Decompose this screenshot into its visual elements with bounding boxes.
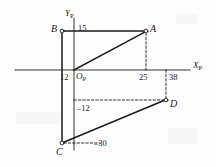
segment-OA — [74, 32, 145, 70]
point-marker-C — [60, 141, 64, 145]
tick-label-12: 12 — [60, 73, 69, 82]
tick-label-38: 38 — [169, 73, 178, 82]
point-label-A: A — [150, 24, 156, 34]
y-axis-label: YP — [65, 9, 74, 18]
point-label-C: C — [56, 147, 63, 157]
origin-label: OP — [76, 72, 86, 81]
tick-label-25: 25 — [139, 73, 148, 82]
coordinate-diagram: YP XP OP A B C D 15 12 25 38 –12 –30 — [0, 0, 216, 167]
tick-label-neg12: –12 — [77, 104, 90, 113]
x-axis-label: XP — [193, 61, 202, 70]
point-marker-D — [164, 98, 168, 102]
tick-label-neg30: –30 — [94, 139, 107, 148]
point-marker-B — [60, 29, 64, 33]
diagram-canvas — [0, 0, 216, 167]
point-marker-A — [144, 29, 148, 33]
point-label-D: D — [170, 99, 177, 109]
tick-label-15: 15 — [78, 24, 87, 33]
point-label-B: B — [51, 24, 57, 34]
